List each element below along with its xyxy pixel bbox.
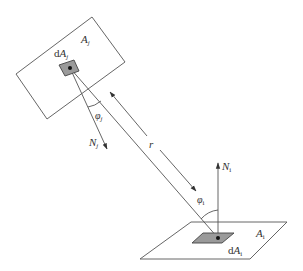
label-phi-i: φi	[197, 194, 205, 207]
patch-daj-center	[68, 66, 72, 70]
patch-dai-center	[216, 236, 220, 240]
line-of-sight	[70, 68, 218, 238]
label-phi-j: φj	[95, 110, 103, 123]
view-factor-diagram: Aj dAj φj Nj r Ni φi Ai dAi	[0, 0, 303, 271]
angle-phi-i-arc	[201, 210, 218, 219]
label-dai: dAi	[228, 244, 242, 258]
label-daj: dAj	[54, 47, 68, 61]
distance-r-arrow-lower	[160, 150, 196, 191]
label-r: r	[149, 138, 154, 150]
label-ni: Ni	[221, 160, 231, 174]
label-nj: Nj	[88, 136, 98, 150]
distance-r-arrow-upper	[110, 92, 147, 136]
